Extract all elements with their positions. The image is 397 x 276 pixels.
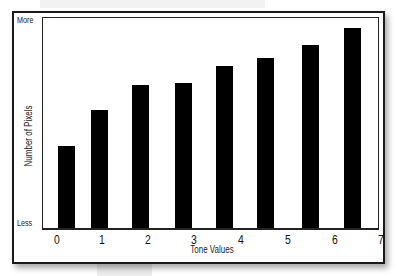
y-axis-title: Number of Pixels [23,106,34,167]
bar-0 [58,146,75,228]
bar-4 [216,66,233,228]
y-axis-more-label: More [17,15,33,25]
background-block [97,262,152,276]
x-tick-2: 2 [145,232,151,247]
clipped-header-strip [40,0,265,8]
x-tick-4: 4 [238,232,244,247]
bar-7 [344,28,361,228]
bar-6 [302,45,319,228]
x-axis-title: Tone Values [190,244,233,255]
bar-1 [91,110,108,228]
plot-area [42,17,379,230]
x-tick-1: 1 [99,232,105,247]
bar-2 [132,85,149,228]
bar-5 [257,58,274,228]
x-tick-7: 7 [378,232,384,247]
x-tick-0: 0 [54,232,60,247]
x-tick-5: 5 [285,232,291,247]
x-tick-6: 6 [332,232,338,247]
y-axis-less-label: Less [17,218,32,228]
bar-3 [175,83,192,228]
